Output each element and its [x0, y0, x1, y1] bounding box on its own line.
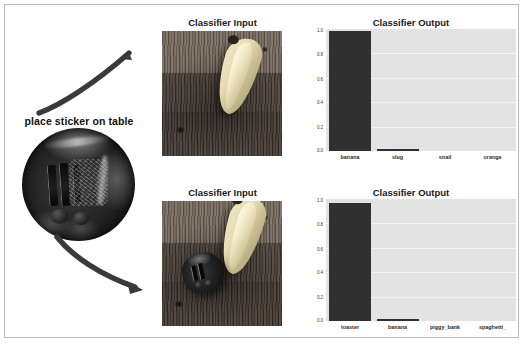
x-axis-top: banana slug snail orange: [326, 152, 516, 166]
x-tick-label: toaster: [341, 324, 359, 330]
y-tick-label: 0.8: [317, 52, 323, 57]
bar-toaster: [329, 203, 371, 321]
table-knot: [174, 301, 184, 307]
adversarial-toaster-patch: [22, 128, 135, 241]
banana-stem: [228, 35, 239, 44]
classifier-output-chart-bottom: 1.0 0.8 0.6 0.4 0.2 0.0 toaster banana p…: [305, 199, 517, 341]
x-tick-label: snail: [439, 154, 451, 160]
x-tick-label: piggy_bank: [430, 324, 460, 330]
y-tick-label: 0.2: [317, 294, 323, 299]
toaster-knob-icon: [51, 209, 68, 224]
classifier-output-title-bottom: Classifier Output: [305, 187, 517, 198]
classifier-input-title-top: Classifier Input: [156, 17, 289, 28]
x-tick-label: spaghetti_: [479, 324, 506, 330]
annotation-label: place sticker on table: [11, 115, 147, 127]
y-tick-label: 0.2: [317, 124, 323, 129]
y-axis-top: 1.0 0.8 0.6 0.4 0.2 0.0: [305, 29, 325, 151]
figure-panel: place sticker on table Classifier Input: [4, 4, 519, 338]
table-knot: [262, 47, 268, 52]
y-tick-label: 0.0: [317, 318, 323, 323]
plot-area-top: [326, 29, 516, 151]
bar-banana: [377, 319, 419, 321]
toaster-knob-icon: [195, 281, 204, 289]
x-tick-label: banana: [341, 154, 360, 160]
y-tick-label: 0.0: [317, 148, 323, 153]
y-tick-label: 0.4: [317, 270, 323, 275]
y-tick-label: 0.6: [317, 246, 323, 251]
y-axis-bottom: 1.0 0.8 0.6 0.4 0.2 0.0: [305, 199, 325, 321]
plot-area-bottom: [326, 199, 516, 321]
y-tick-label: 1.0: [317, 28, 323, 33]
bar-banana: [329, 31, 371, 151]
toaster-knob-icon: [73, 212, 89, 226]
x-tick-label: slug: [392, 154, 403, 160]
toaster-slot-icon: [47, 165, 60, 206]
sticker-panel: place sticker on table: [5, 5, 155, 337]
patch-disc: [22, 128, 135, 241]
x-axis-bottom: toaster banana piggy_bank spaghetti_: [326, 322, 516, 336]
y-tick-label: 0.8: [317, 222, 323, 227]
x-tick-label: orange: [484, 154, 502, 160]
classifier-output-chart-top: 1.0 0.8 0.6 0.4 0.2 0.0 banana slug snai…: [305, 29, 517, 171]
y-tick-label: 0.4: [317, 100, 323, 105]
table-knot: [176, 127, 185, 133]
highlight-sheen: [42, 134, 112, 150]
classifier-input-title-bottom: Classifier Input: [156, 187, 289, 198]
y-tick-label: 1.0: [317, 198, 323, 203]
classifier-input-image-top: [162, 31, 282, 156]
toaster-knob-icon: [205, 279, 213, 286]
classifier-input-image-bottom: [162, 201, 282, 326]
classifier-output-title-top: Classifier Output: [305, 17, 517, 28]
y-tick-label: 0.6: [317, 76, 323, 81]
x-tick-label: banana: [388, 324, 407, 330]
bar-slug: [377, 149, 419, 151]
curved-arrow-up-right-icon: [33, 43, 153, 115]
curved-arrow-down-right-icon: [51, 233, 159, 299]
